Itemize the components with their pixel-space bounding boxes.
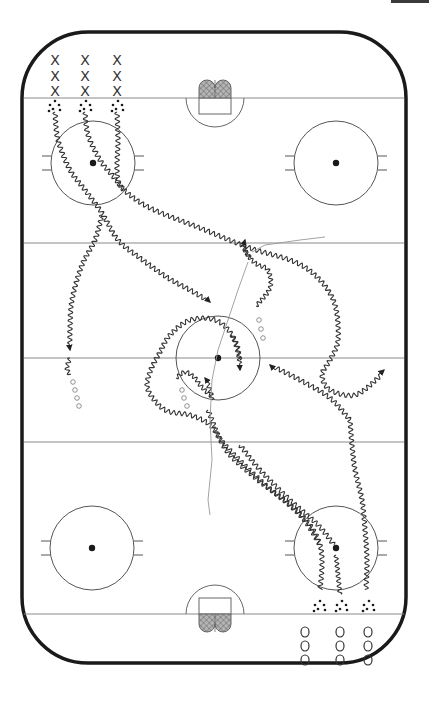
player-x-icon: X <box>50 52 60 68</box>
puck-dot <box>363 604 366 607</box>
puck-dot <box>58 104 61 107</box>
player-x-icon: X <box>50 83 60 99</box>
puck-dot <box>339 608 342 611</box>
faceoff-dot <box>333 160 339 166</box>
player-x-icon: X <box>50 68 60 84</box>
crease-box <box>199 98 231 114</box>
puck-dot <box>83 108 86 111</box>
puck-dot <box>341 600 344 603</box>
puck-dot <box>111 110 114 113</box>
crease-box <box>199 598 231 614</box>
puck-dot <box>372 604 375 607</box>
puck-dot <box>49 104 52 107</box>
puck-dot <box>122 109 125 112</box>
faceoff-dot <box>333 545 339 551</box>
puck-dot <box>324 609 327 612</box>
puck-dot <box>85 100 88 103</box>
player-x-icon: X <box>80 83 90 99</box>
puck-dot <box>345 604 348 607</box>
puck-dot <box>89 104 92 107</box>
puck-dot <box>366 608 369 611</box>
puck-dot <box>317 608 320 611</box>
puck-dot <box>314 604 317 607</box>
player-x-icon: X <box>80 68 90 84</box>
puck-dot <box>313 610 316 613</box>
puck-dot <box>117 100 120 103</box>
puck-dot <box>335 610 338 613</box>
player-x-icon: X <box>80 52 90 68</box>
puck-dot <box>79 110 82 113</box>
player-x-icon: X <box>112 52 122 68</box>
faceoff-dot <box>90 160 96 166</box>
puck-dot <box>80 104 83 107</box>
faceoff-dot <box>89 545 95 551</box>
puck-dot <box>319 600 322 603</box>
puck-dot <box>90 109 93 112</box>
player-x-icon: X <box>112 68 122 84</box>
puck-dot <box>336 604 339 607</box>
puck-dot <box>115 108 118 111</box>
puck-dot <box>362 610 365 613</box>
puck-dot <box>121 104 124 107</box>
puck-dot <box>52 108 55 111</box>
puck-dot <box>323 604 326 607</box>
rink-diagram: XXXXXXXXX <box>0 0 432 711</box>
puck-dot <box>48 110 51 113</box>
puck-dot <box>54 100 57 103</box>
puck-dot <box>112 104 115 107</box>
puck-dot <box>373 609 376 612</box>
puck-dot <box>346 609 349 612</box>
puck-dot <box>59 109 62 112</box>
player-x-icon: X <box>112 83 122 99</box>
puck-dot <box>368 600 371 603</box>
